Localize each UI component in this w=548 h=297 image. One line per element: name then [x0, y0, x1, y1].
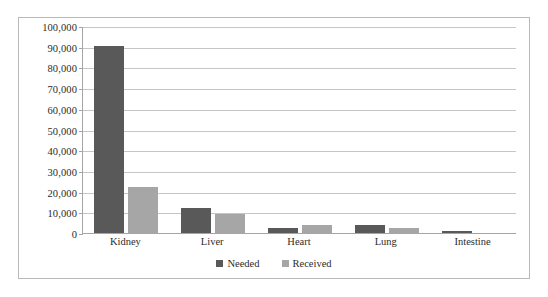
- legend-swatch-icon: [282, 260, 289, 267]
- y-axis-tick-label: 50,000: [48, 125, 77, 136]
- legend-item-needed[interactable]: Needed: [216, 258, 259, 269]
- bar-group: [181, 27, 245, 233]
- bar-needed-intestine[interactable]: [442, 231, 472, 233]
- legend-item-received[interactable]: Received: [282, 258, 332, 269]
- x-axis-category-labels: KidneyLiverHeartLungIntestine: [82, 236, 516, 254]
- chart-frame: 100,00090,00080,00070,00060,00050,00040,…: [18, 17, 530, 279]
- y-axis-tick-label: 90,000: [48, 42, 77, 53]
- y-axis-tick-labels: 100,00090,00080,00070,00060,00050,00040,…: [19, 27, 81, 234]
- bars-layer: [83, 27, 516, 233]
- y-axis-tick-label: 10,000: [48, 208, 77, 219]
- bar-group: [268, 27, 332, 233]
- bar-received-liver[interactable]: [215, 214, 245, 233]
- bar-group: [442, 27, 506, 233]
- bar-needed-lung[interactable]: [355, 225, 385, 233]
- bar-needed-kidney[interactable]: [94, 46, 124, 233]
- x-axis-label-liver: Liver: [201, 236, 224, 247]
- y-axis-tick-label: 40,000: [48, 146, 77, 157]
- legend-swatch-icon: [216, 260, 223, 267]
- x-axis-label-intestine: Intestine: [455, 236, 491, 247]
- chart-legend: NeededReceived: [19, 258, 529, 269]
- x-axis-label-heart: Heart: [287, 236, 310, 247]
- bar-needed-heart[interactable]: [268, 228, 298, 233]
- bar-group: [94, 27, 158, 233]
- y-axis-tick-label: 20,000: [48, 187, 77, 198]
- legend-label: Received: [293, 258, 332, 269]
- chart-plot-wrapper: 100,00090,00080,00070,00060,00050,00040,…: [19, 18, 529, 278]
- bar-received-kidney[interactable]: [128, 187, 158, 233]
- x-axis-label-lung: Lung: [375, 236, 397, 247]
- bar-group: [355, 27, 419, 233]
- y-axis-tick-label: 0: [72, 229, 77, 240]
- y-axis-tick-label: 70,000: [48, 84, 77, 95]
- y-axis-tick-label: 60,000: [48, 104, 77, 115]
- x-axis-label-kidney: Kidney: [110, 236, 141, 247]
- legend-label: Needed: [227, 258, 259, 269]
- bar-needed-liver[interactable]: [181, 208, 211, 233]
- y-axis-tick-label: 80,000: [48, 63, 77, 74]
- bar-received-heart[interactable]: [302, 225, 332, 233]
- y-axis-tickmark: [79, 234, 83, 235]
- y-axis-tick-label: 30,000: [48, 166, 77, 177]
- plot-area: [82, 27, 516, 234]
- bar-received-lung[interactable]: [389, 228, 419, 233]
- y-axis-tick-label: 100,000: [42, 22, 77, 33]
